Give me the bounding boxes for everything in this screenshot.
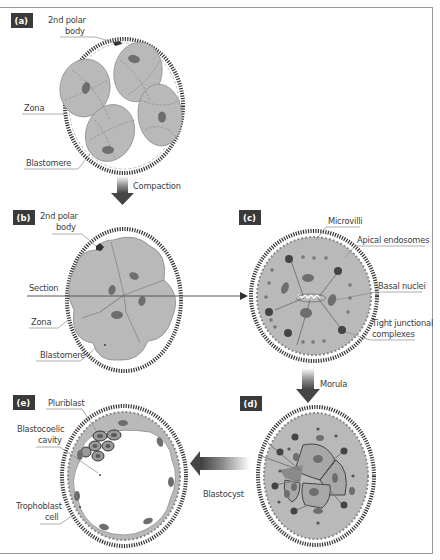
compaction-arrow: Compaction — [111, 176, 181, 205]
label-blastomere-a: Blastomere — [26, 158, 71, 168]
panel-e: (e) Pluriblast Blastocoelic cavity — [13, 395, 186, 546]
label-polar-body-a-2: body — [65, 26, 85, 36]
label-section: Section — [29, 283, 58, 293]
label-apical-endosomes: Apical endosomes — [357, 235, 429, 245]
compacted-blastomeres — [68, 237, 175, 360]
label-polar-body-b-1: 2nd polar — [40, 211, 79, 221]
panel-d: (d) — [240, 396, 374, 545]
compaction-label: Compaction — [133, 181, 181, 191]
blastocyst-label: Blastocyst — [203, 489, 245, 499]
panel-tag-d-text: (d) — [244, 399, 258, 409]
label-zona-a: Zona — [24, 103, 44, 113]
panel-tag-b-text: (b) — [17, 213, 31, 223]
panel-tag-a-text: (a) — [15, 16, 29, 26]
label-zona-b: Zona — [31, 317, 51, 327]
label-basal-nuclei: Basal nuclei — [378, 281, 426, 291]
label-microvilli: Microvilli — [328, 216, 362, 226]
morula-label: Morula — [320, 379, 347, 389]
blastocyst-arrow: Blastocyst — [190, 451, 250, 499]
label-tight-junctional-2: complexes — [372, 329, 415, 339]
morula-arrow: Morula — [296, 368, 347, 403]
panel-tag-e-text: (e) — [17, 398, 31, 408]
label-polar-body-a-1: 2nd polar — [48, 15, 87, 25]
label-pluriblast: Pluriblast — [48, 398, 85, 408]
label-blastocoelic-2: cavity — [38, 435, 62, 445]
embryo-development-diagram: (a) 2nd polar body Zona Blastomere — [0, 0, 440, 560]
panel-tag-c-text: (c) — [243, 213, 256, 223]
label-blastomere-b: Blastomere — [40, 350, 85, 360]
label-tight-junctional-1: Tight junctional — [371, 318, 433, 328]
label-trophoblast-2: cell — [45, 512, 58, 522]
label-trophoblast-1: Trophoblast — [15, 501, 63, 511]
panel-c: (c) Microvilli Apical endosomes — [239, 210, 433, 361]
label-blastocoelic-1: Blastocoelic — [17, 424, 65, 434]
panel-a: (a) 2nd polar body Zona Blastomere — [11, 13, 185, 173]
panel-b: (b) 2nd polar body Section Zona Blastome… — [13, 210, 248, 371]
label-polar-body-b-2: body — [56, 222, 76, 232]
polar-body-a — [113, 41, 122, 46]
